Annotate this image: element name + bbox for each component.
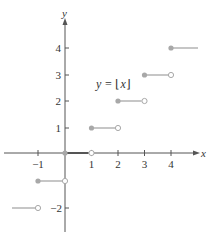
closed-dot xyxy=(142,72,147,77)
open-dot xyxy=(115,125,120,130)
closed-dot xyxy=(168,45,173,50)
x-axis-label: x xyxy=(200,147,206,159)
y-tick-label: −2 xyxy=(50,202,62,214)
equation-annotation: y = ⌊x⌋ xyxy=(95,77,131,91)
open-dot xyxy=(168,72,173,77)
closed-dot xyxy=(62,150,67,155)
closed-dot xyxy=(35,178,40,183)
x-tick-label: 3 xyxy=(142,158,148,170)
x-axis-arrow-icon xyxy=(193,151,200,156)
y-tick-label: 3 xyxy=(56,69,62,81)
open-dot xyxy=(35,205,40,210)
closed-dot xyxy=(89,125,94,130)
y-tick-label: 4 xyxy=(56,42,62,54)
x-tick-label: −1 xyxy=(32,158,44,170)
y-tick-label: 2 xyxy=(56,95,62,107)
floor-function-graph: −1 1 2 3 4 −2 1 2 3 4 x y y = ⌊x⌋ xyxy=(0,0,218,236)
y-tick-label: 1 xyxy=(56,122,62,134)
step-segments xyxy=(12,45,198,210)
closed-dot xyxy=(115,98,120,103)
open-dot xyxy=(142,98,147,103)
x-tick-label: 1 xyxy=(89,158,95,170)
open-dot xyxy=(62,178,67,183)
open-dot xyxy=(89,150,94,155)
y-axis-arrow-icon xyxy=(63,18,68,25)
y-axis-label: y xyxy=(61,7,67,19)
x-tick-label: 2 xyxy=(115,158,121,170)
x-tick-label: 4 xyxy=(168,158,174,170)
